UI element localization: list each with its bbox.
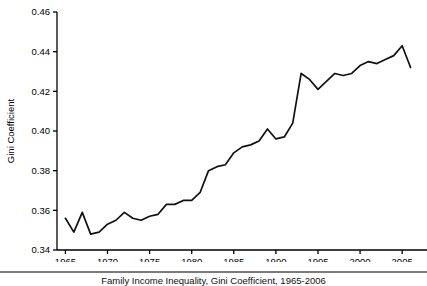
y-axis-title: Gini Coefficient (5, 99, 16, 164)
y-tick-label: 0.34 (32, 244, 51, 255)
line-chart: 0.340.360.380.400.420.440.46 19651970197… (0, 0, 427, 262)
y-axis: 0.340.360.380.400.420.440.46 (32, 6, 58, 255)
x-tick-label: 1970 (97, 256, 118, 262)
caption-divider (0, 271, 427, 273)
x-tick-label: 1990 (265, 256, 286, 262)
x-tick-label: 2000 (349, 256, 370, 262)
y-tick-label: 0.40 (32, 125, 51, 136)
x-tick-label: 1980 (181, 256, 202, 262)
y-tick-label: 0.38 (32, 165, 51, 176)
series-line-gini-coefficient (65, 46, 410, 234)
y-tick-label: 0.46 (32, 6, 51, 17)
chart-plot-area: 0.340.360.380.400.420.440.46 19651970197… (0, 0, 427, 262)
y-tick-label: 0.42 (32, 86, 51, 97)
x-tick-label: 1985 (223, 256, 244, 262)
figure-caption: Family Income Inequality, Gini Coefficie… (0, 275, 427, 286)
x-tick-label: 1975 (139, 256, 160, 262)
data-series-group (65, 46, 410, 234)
x-tick-label: 1995 (307, 256, 328, 262)
y-tick-label: 0.44 (32, 46, 51, 57)
x-axis: 196519701975198019851990199520002005 (55, 250, 427, 262)
x-tick-label: 1965 (55, 256, 76, 262)
y-tick-label: 0.36 (32, 205, 51, 216)
x-tick-label: 2005 (392, 256, 413, 262)
